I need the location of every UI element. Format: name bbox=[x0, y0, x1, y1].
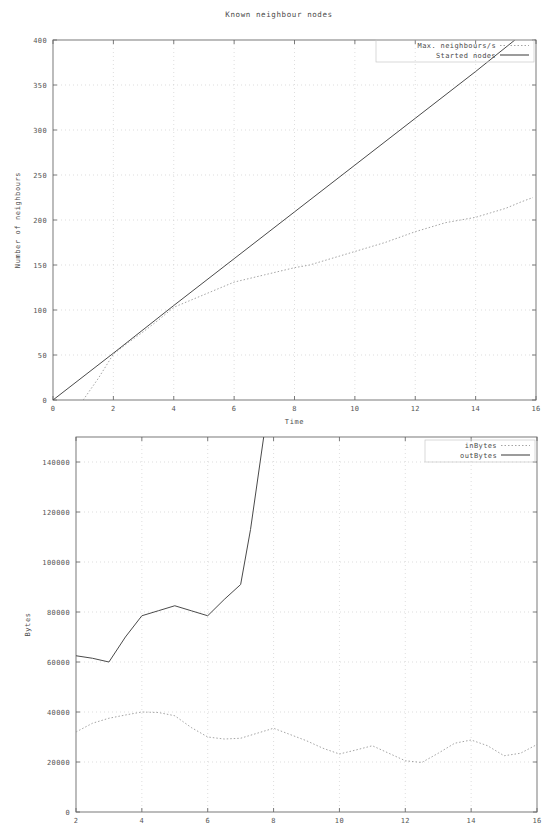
y-tick-label: 50 bbox=[38, 352, 47, 360]
x-tick-label: 6 bbox=[232, 405, 237, 413]
y-tick-label: 100 bbox=[33, 307, 47, 315]
y-tick-label: 120000 bbox=[42, 509, 70, 517]
x-tick-label: 2 bbox=[111, 405, 116, 413]
y-axis-title: Number of neighbours bbox=[14, 172, 22, 268]
y-axis-title: Bytes bbox=[24, 612, 32, 636]
y-tick-label: 200 bbox=[33, 217, 47, 225]
legend-label-1: Max. neighbours/s bbox=[418, 42, 496, 50]
legend-label-1: inBytes bbox=[465, 442, 497, 450]
screenshot-page: Known neighbour nodes 024681012141605010… bbox=[0, 0, 558, 830]
y-tick-label: 100000 bbox=[42, 559, 70, 567]
x-tick-label: 14 bbox=[471, 405, 480, 413]
x-tick-label: 16 bbox=[531, 405, 540, 413]
y-tick-label: 140000 bbox=[42, 459, 70, 467]
y-tick-label: 250 bbox=[33, 172, 47, 180]
x-tick-label: 8 bbox=[292, 405, 297, 413]
y-tick-label: 80000 bbox=[47, 609, 70, 617]
x-tick-label: 6 bbox=[205, 817, 210, 825]
y-tick-label: 0 bbox=[65, 809, 70, 817]
legend-label-2: Started nodes bbox=[436, 52, 496, 60]
y-tick-label: 400 bbox=[33, 37, 47, 45]
x-tick-label: 12 bbox=[401, 817, 410, 825]
x-tick-label: 10 bbox=[335, 817, 344, 825]
x-tick-label: 10 bbox=[350, 405, 359, 413]
series-line-1 bbox=[83, 198, 533, 401]
series-line-2 bbox=[76, 437, 264, 662]
figure-bytes: 2468101214160200004000060000800001000001… bbox=[0, 425, 558, 830]
series-line-1 bbox=[76, 712, 537, 763]
x-tick-label: 8 bbox=[271, 817, 276, 825]
y-tick-label: 40000 bbox=[47, 709, 70, 717]
chart-legend: inBytesoutBytes bbox=[425, 440, 535, 462]
x-tick-label: 16 bbox=[532, 817, 541, 825]
x-tick-label: 4 bbox=[140, 817, 145, 825]
y-tick-label: 60000 bbox=[47, 659, 70, 667]
y-tick-label: 0 bbox=[42, 397, 47, 405]
x-tick-label: 0 bbox=[51, 405, 56, 413]
x-tick-label: 2 bbox=[74, 817, 79, 825]
figure-known-neighbour-nodes: Known neighbour nodes 024681012141605010… bbox=[0, 0, 558, 425]
x-axis-title: Time bbox=[285, 418, 304, 425]
y-tick-label: 350 bbox=[33, 82, 47, 90]
legend-label-2: outBytes bbox=[460, 452, 497, 460]
x-tick-label: 14 bbox=[467, 817, 476, 825]
x-tick-label: 4 bbox=[171, 405, 176, 413]
y-tick-label: 300 bbox=[33, 127, 47, 135]
plot-canvas-bottom: 2468101214160200004000060000800001000001… bbox=[0, 425, 558, 830]
y-tick-label: 150 bbox=[33, 262, 47, 270]
x-tick-label: 12 bbox=[411, 405, 420, 413]
plot-canvas-top: 0246810121416050100150200250300350400Tim… bbox=[0, 0, 558, 425]
y-tick-label: 20000 bbox=[47, 759, 70, 767]
